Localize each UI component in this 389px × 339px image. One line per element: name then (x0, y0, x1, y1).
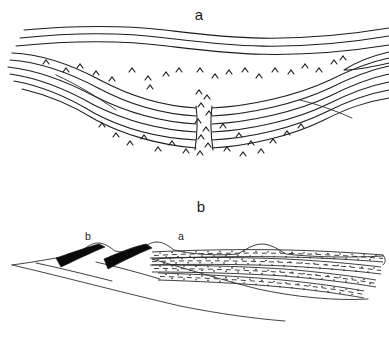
chevron-icon (147, 85, 153, 89)
chevron-icon (220, 124, 226, 128)
chevron-icon (212, 74, 218, 78)
chevron-icon (203, 127, 209, 131)
chevron-icon (270, 139, 276, 143)
chevron-icon (205, 143, 211, 147)
fold-line-left-6 (22, 89, 196, 148)
cross-section-canvas: a (0, 0, 389, 339)
chevron-icon (224, 147, 230, 151)
thrust-slice-label-b: b (85, 230, 91, 242)
thrust-fault-trace-1 (36, 263, 112, 281)
chevron-icon (183, 149, 189, 153)
chevron-icon (109, 77, 115, 81)
chevron-icon (302, 64, 308, 68)
chevron-icon (256, 74, 262, 78)
chevron-icon (43, 60, 49, 64)
branch-line-right (300, 100, 352, 118)
sediment-package-right-edge (383, 255, 385, 265)
panel-a-label: a (195, 6, 204, 23)
figure-root: a (0, 0, 389, 339)
sediment-band-1 (152, 250, 383, 262)
chevron-icon (113, 133, 119, 137)
chevron-icon (169, 141, 175, 145)
panel-a-group: a (8, 6, 389, 156)
chevron-icon (129, 68, 135, 72)
chevron-icon (176, 68, 182, 72)
chevron-icon (198, 135, 204, 139)
chevron-icon (163, 72, 169, 76)
sediment-package-label-a: a (178, 230, 184, 242)
chevron-icon (195, 119, 201, 123)
chevron-icon (226, 70, 232, 74)
chevron-icon (198, 103, 204, 107)
chevron-icon (298, 124, 304, 128)
fault-wall-left (195, 106, 197, 150)
panel-a-left-limb (8, 53, 197, 150)
chevron-icon (204, 95, 210, 99)
chevron-icon (127, 141, 133, 145)
chevron-icon (145, 76, 151, 80)
chevron-icon (77, 64, 83, 68)
thrust-slice-1 (56, 244, 105, 267)
chevron-icon (236, 133, 242, 137)
panel-a-upper-layers (16, 27, 389, 55)
strat-line-upper-1 (24, 27, 389, 39)
fold-line-left-2 (10, 60, 196, 116)
chevron-icon (316, 68, 322, 72)
fault-wall-right (211, 106, 213, 150)
chevron-icon (196, 90, 202, 94)
panel-b-group: b b a (12, 198, 385, 321)
panel-b-label: b (197, 198, 205, 215)
sediment-band-4 (158, 273, 364, 298)
panel-a-chevron-field (43, 56, 346, 156)
chevron-icon (155, 147, 161, 151)
chevron-icon (240, 152, 246, 156)
chevron-icon (288, 70, 294, 74)
chevron-icon (242, 68, 248, 72)
chevron-icon (63, 68, 69, 72)
chevron-icon (331, 60, 337, 64)
chevron-icon (197, 68, 203, 72)
thrust-fault-trace-2 (96, 262, 160, 279)
chevron-icon (93, 71, 99, 75)
chevron-icon (197, 151, 203, 155)
chevron-icon (340, 56, 346, 60)
chevron-icon (272, 68, 278, 72)
basal-detachment-line (12, 265, 285, 321)
chevron-icon (258, 149, 264, 153)
fold-line-left-3 (8, 67, 196, 124)
